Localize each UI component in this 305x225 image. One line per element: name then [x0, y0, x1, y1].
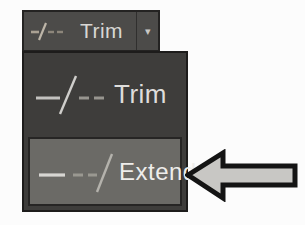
trim-split-button[interactable]: Trim ▾	[22, 10, 160, 52]
trim-icon	[32, 68, 114, 120]
trim-extend-dropdown: Trim Extend	[22, 51, 188, 212]
trim-button-label: Trim	[67, 19, 136, 43]
extend-icon	[35, 148, 119, 196]
menu-item-extend[interactable]: Extend	[28, 137, 182, 206]
dropdown-caret-icon[interactable]: ▾	[137, 25, 158, 38]
screenshot-root: Trim ▾ Trim Extend	[0, 0, 305, 225]
menu-item-trim[interactable]: Trim	[24, 53, 186, 135]
menu-item-trim-label: Trim	[114, 79, 167, 110]
trim-icon	[29, 19, 67, 43]
annotation-arrow-left-icon	[185, 149, 299, 202]
